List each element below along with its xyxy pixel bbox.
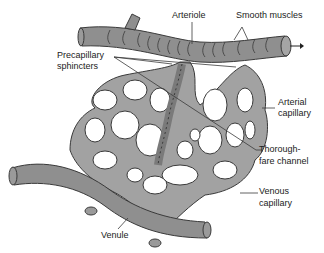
capillary-network: [70, 62, 268, 230]
arteriole-vessel: [78, 14, 304, 62]
label-arteriole: Arteriole: [172, 10, 206, 21]
label-venous-capillary-1: Venous: [259, 186, 289, 197]
label-thoroughfare-channel-1: Thorough-: [259, 144, 301, 155]
label-smooth-muscles: Smooth muscles: [236, 10, 303, 21]
label-thoroughfare-channel-2: fare channel: [259, 156, 309, 167]
label-precapillary-sphincters-2: sphincters: [57, 61, 98, 72]
label-precapillary-sphincters-1: Precapillary: [57, 50, 104, 61]
label-venous-capillary-2: capillary: [259, 198, 292, 209]
label-arterial-capillary-2: capillary: [278, 108, 311, 119]
label-venule: Venule: [101, 230, 129, 241]
label-arterial-capillary-1: Arterial: [278, 97, 307, 108]
capillary-bed-diagram: [0, 0, 324, 253]
